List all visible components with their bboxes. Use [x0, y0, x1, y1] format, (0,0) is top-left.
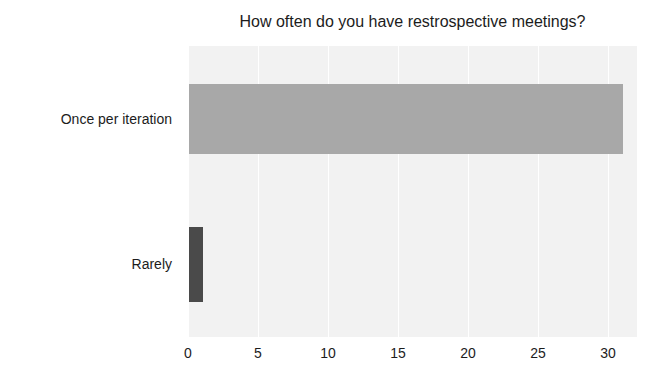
x-axis-tick-label: 25 — [518, 344, 558, 362]
y-axis-tick-label: Rarely — [0, 256, 172, 272]
bar-rarely[interactable] — [189, 227, 203, 302]
bar-once-per-iteration[interactable] — [189, 84, 623, 154]
x-axis-tick-label: 15 — [378, 344, 418, 362]
y-axis-tick-label: Once per iteration — [0, 111, 172, 127]
bar-chart: How often do you have restrospective mee… — [0, 0, 668, 391]
x-axis-tick-label: 30 — [588, 344, 628, 362]
x-axis-labels: 051015202530 — [188, 344, 637, 368]
y-axis-labels: Once per iterationRarely — [0, 46, 180, 337]
x-axis-tick-label: 10 — [308, 344, 348, 362]
x-axis-tick-label: 0 — [168, 344, 208, 362]
bar-row — [188, 192, 637, 338]
bar-row — [188, 46, 637, 192]
plot-area — [188, 46, 637, 337]
x-axis-tick-label: 5 — [238, 344, 278, 362]
chart-title: How often do you have restrospective mee… — [188, 12, 637, 32]
x-axis-tick-label: 20 — [448, 344, 488, 362]
